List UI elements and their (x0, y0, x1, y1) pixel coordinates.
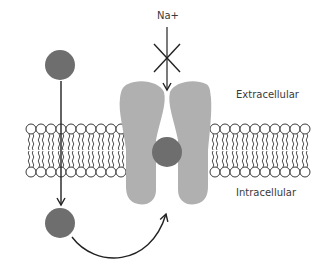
ion-in-channel (152, 137, 182, 167)
ion-extracellular (45, 50, 75, 80)
label-extracellular: Extracellular (236, 89, 299, 100)
ion-label-na: Na+ (157, 10, 179, 21)
ion-intracellular (45, 208, 75, 238)
lipid-bilayer-right (210, 124, 310, 177)
arrow-to-channel (72, 214, 166, 258)
lipid-bilayer-left (26, 124, 126, 177)
label-intracellular: Intracellular (236, 187, 296, 198)
membrane-transport-diagram (0, 0, 330, 274)
